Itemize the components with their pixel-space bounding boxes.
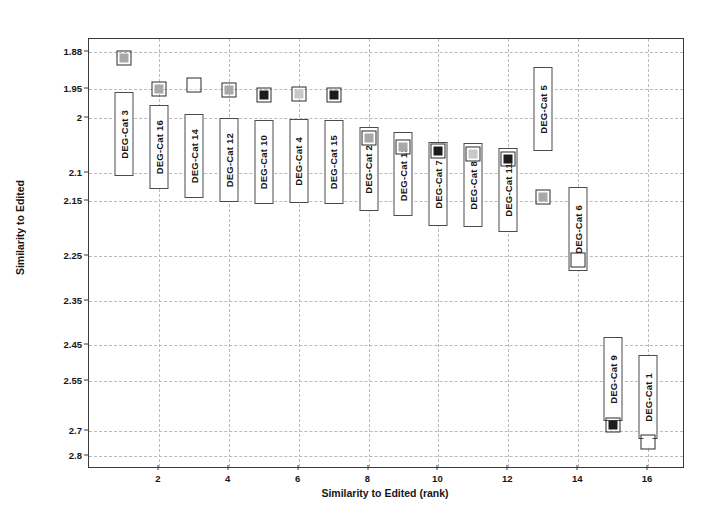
data-point-marker[interactable] — [641, 435, 656, 450]
data-point-marker[interactable] — [361, 131, 376, 146]
gridline-vertical — [438, 39, 439, 467]
gridline-horizontal — [89, 118, 683, 119]
data-point-marker[interactable] — [186, 78, 201, 93]
point-label-text: DEG-Cat 7 — [434, 160, 444, 209]
gridline-horizontal — [89, 89, 683, 90]
point-label-box: DEG-Cat 3 — [114, 92, 133, 176]
gridline-horizontal — [89, 381, 683, 382]
x-axis-tick-label: 6 — [295, 473, 300, 484]
x-axis-tick-mark — [507, 465, 508, 470]
data-point-marker[interactable] — [221, 83, 236, 98]
y-axis-tick-label: 2 — [48, 112, 82, 123]
data-point-marker[interactable] — [291, 87, 306, 102]
data-point-marker[interactable] — [396, 140, 411, 155]
point-label-box: DEG-Cat 4 — [289, 119, 308, 203]
point-label-box: DEG-Cat 9 — [604, 337, 623, 421]
x-axis-tick-label: 10 — [432, 473, 443, 484]
data-point-marker[interactable] — [501, 152, 516, 167]
point-label-text: DEG-Cat 4 — [294, 137, 304, 186]
x-axis-tick-mark — [367, 465, 368, 470]
data-point-marker[interactable] — [151, 82, 166, 97]
x-axis-tick-mark — [437, 465, 438, 470]
data-point-marker[interactable] — [466, 147, 481, 162]
data-point-marker[interactable] — [326, 88, 341, 103]
gridline-vertical — [299, 39, 300, 467]
data-point-marker[interactable] — [536, 190, 551, 205]
point-label-text: DEG-Cat 9 — [608, 355, 618, 404]
point-label-text: DEG-Cat 14 — [189, 129, 199, 183]
point-label-box: DEG-Cat 16 — [149, 105, 168, 189]
y-axis-title: Similarity to Edited — [14, 180, 26, 275]
y-axis-tick-label: 2.1 — [48, 167, 82, 178]
x-axis-tick-mark — [647, 465, 648, 470]
data-point-marker[interactable] — [116, 51, 131, 66]
gridline-vertical — [508, 39, 509, 467]
gridline-horizontal — [89, 456, 683, 457]
x-axis-tick-mark — [297, 465, 298, 470]
plot-area: DEG-Cat 3DEG-Cat 16DEG-Cat 14DEG-Cat 12D… — [88, 38, 684, 468]
y-axis-tick-label: 2.45 — [48, 339, 82, 350]
x-axis-title: Similarity to Edited (rank) — [88, 487, 682, 499]
x-axis-tick-label: 2 — [155, 473, 160, 484]
y-axis-tick-label: 2.55 — [48, 375, 82, 386]
gridline-horizontal — [89, 301, 683, 302]
gridline-horizontal — [89, 201, 683, 202]
gridline-horizontal — [89, 431, 683, 432]
gridline-vertical — [369, 39, 370, 467]
data-point-marker[interactable] — [571, 253, 586, 268]
point-label-text: DEG-Cat 1 — [643, 373, 653, 422]
y-axis-tick-label: 2.35 — [48, 295, 82, 306]
y-axis-tick-label: 2.8 — [48, 450, 82, 461]
gridline-horizontal — [89, 256, 683, 257]
x-axis-tick-label: 4 — [225, 473, 230, 484]
data-point-marker[interactable] — [256, 88, 271, 103]
gridline-horizontal — [89, 52, 683, 53]
x-axis-tick-mark — [227, 465, 228, 470]
point-label-box: DEG-Cat 1 — [639, 355, 658, 439]
x-axis-tick-mark — [157, 465, 158, 470]
point-label-text: DEG-Cat 12 — [224, 133, 234, 187]
x-axis-tick-label: 12 — [502, 473, 513, 484]
point-label-text: DEG-Cat 8 — [469, 161, 479, 210]
gridline-horizontal — [89, 173, 683, 174]
point-label-text: DEG-Cat 10 — [259, 135, 269, 189]
chart-root: Similarity to Edited 1.881.9522.12.152.2… — [0, 0, 704, 514]
point-label-text: DEG-Cat 5 — [538, 85, 548, 134]
data-point-marker[interactable] — [431, 144, 446, 159]
point-label-text: DEG-Cat 3 — [119, 110, 129, 159]
gridline-vertical — [159, 39, 160, 467]
x-axis-tick-label: 14 — [572, 473, 583, 484]
point-label-box: DEG-Cat 5 — [534, 67, 553, 151]
x-axis-tick-label: 16 — [642, 473, 653, 484]
y-axis-tick-label: 2.25 — [48, 250, 82, 261]
point-label-box: DEG-Cat 15 — [324, 120, 343, 204]
point-label-text: DEG-Cat 16 — [154, 120, 164, 174]
point-label-text: DEG-Cat 15 — [329, 135, 339, 189]
y-axis-tick-label: 2.7 — [48, 425, 82, 436]
point-label-text: DEG-Cat 11 — [504, 163, 514, 217]
y-axis-tick-label: 1.88 — [48, 46, 82, 57]
point-label-text: DEG-Cat 13 — [399, 147, 409, 201]
point-label-box: DEG-Cat 10 — [254, 120, 273, 204]
gridline-vertical — [229, 39, 230, 467]
gridline-horizontal — [89, 345, 683, 346]
point-label-box: DEG-Cat 12 — [219, 118, 238, 202]
x-axis-tick-label: 8 — [365, 473, 370, 484]
y-axis-tick-label: 1.95 — [48, 83, 82, 94]
y-axis-tick-label: 2.15 — [48, 195, 82, 206]
point-label-text: DEG-Cat 2 — [364, 145, 374, 194]
point-label-text: DEG-Cat 6 — [573, 205, 583, 254]
x-axis-tick-mark — [577, 465, 578, 470]
data-point-marker[interactable] — [606, 418, 621, 433]
point-label-box: DEG-Cat 14 — [184, 114, 203, 198]
